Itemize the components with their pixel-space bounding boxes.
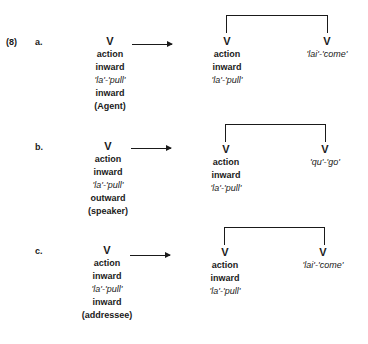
arrow-icon: [130, 255, 170, 256]
feature: (addressee): [67, 309, 147, 322]
example-number: (8): [6, 37, 17, 47]
bracket: [224, 227, 325, 245]
feature: action: [187, 48, 267, 61]
left-verb-stack: V action inward 'la'-'pull': [187, 34, 267, 87]
verb-symbol: V: [186, 142, 266, 156]
gloss: 'la'-'pull': [67, 283, 147, 296]
verb-symbol: V: [185, 245, 265, 259]
left-verb-stack: V action inward 'la'-'pull': [185, 245, 265, 298]
verb-symbol: V: [70, 34, 150, 48]
example-label: c.: [35, 246, 43, 256]
right-verb-stack: V 'lai'-'come': [287, 34, 367, 61]
feature: inward: [185, 272, 265, 285]
gloss: 'lai'-'come': [283, 259, 363, 272]
feature: action: [68, 153, 148, 166]
bracket: [226, 15, 328, 33]
verb-symbol: V: [285, 142, 365, 156]
feature: action: [185, 259, 265, 272]
feature: inward: [70, 87, 150, 100]
right-verb-stack: V 'qu'-'go': [285, 142, 365, 169]
gloss: 'lai'-'come': [287, 48, 367, 61]
example-label: a.: [35, 37, 43, 47]
gloss: 'la'-'pull': [70, 74, 150, 87]
verb-symbol: V: [68, 139, 148, 153]
gloss: 'la'-'pull': [187, 74, 267, 87]
gloss: 'qu'-'go': [285, 156, 365, 169]
feature: inward: [67, 270, 147, 283]
left-verb-stack: V action inward 'la'-'pull': [186, 142, 266, 195]
feature: inward: [67, 296, 147, 309]
source-feature-stack: V action inward 'la'-'pull' inward (Agen…: [70, 34, 150, 113]
example-label: b.: [35, 142, 43, 152]
feature: action: [67, 257, 147, 270]
arrow-icon: [132, 44, 172, 45]
feature: inward: [186, 169, 266, 182]
verb-symbol: V: [287, 34, 367, 48]
feature: inward: [187, 61, 267, 74]
bracket: [225, 124, 326, 142]
source-feature-stack: V action inward 'la'-'pull' outward (spe…: [68, 139, 148, 218]
feature: (speaker): [68, 205, 148, 218]
feature: action: [186, 156, 266, 169]
arrow-icon: [131, 148, 171, 149]
verb-symbol: V: [283, 245, 363, 259]
feature: action: [70, 48, 150, 61]
feature: inward: [70, 61, 150, 74]
verb-symbol: V: [187, 34, 267, 48]
gloss: 'la'-'pull': [186, 182, 266, 195]
feature: inward: [68, 166, 148, 179]
gloss: 'la'-'pull': [185, 285, 265, 298]
feature: (Agent): [70, 100, 150, 113]
right-verb-stack: V 'lai'-'come': [283, 245, 363, 272]
gloss: 'la'-'pull': [68, 179, 148, 192]
feature: outward: [68, 192, 148, 205]
